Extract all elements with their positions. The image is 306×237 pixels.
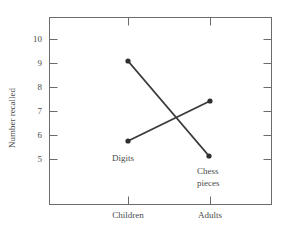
x-tick-label-children: Children xyxy=(112,211,144,220)
chart-plot-area xyxy=(0,0,306,237)
y-tick-label-7: 7 xyxy=(24,107,42,116)
data-point-digits-children xyxy=(125,58,130,63)
data-point-chess-children xyxy=(125,138,130,143)
x-axis-ticks-bottom xyxy=(129,197,211,205)
series-line-chess-pieces xyxy=(128,101,210,141)
x-axis-ticks-top xyxy=(129,18,211,26)
y-tick-label-8: 8 xyxy=(24,83,42,92)
y-tick-label-10: 10 xyxy=(24,35,42,44)
x-tick-label-adults: Adults xyxy=(198,211,222,220)
series-line-digits xyxy=(128,61,209,156)
y-axis-ticks xyxy=(50,40,58,160)
series-annotation-digits: Digits xyxy=(112,153,134,164)
data-point-chess-adults xyxy=(207,98,212,103)
series-annotation-chess-line2: pieces xyxy=(197,178,220,189)
y-axis-title: Number recalled xyxy=(7,88,17,148)
plot-frame xyxy=(50,18,272,205)
y-axis-ticks-right xyxy=(264,40,272,160)
y-tick-label-5: 5 xyxy=(24,155,42,164)
series-annotation-chess-line1: Chess xyxy=(197,166,219,177)
line-chart-figure: Number recalled 10 9 8 7 6 5 Children Ad… xyxy=(0,0,306,237)
y-tick-label-6: 6 xyxy=(24,131,42,140)
data-point-digits-adults xyxy=(206,153,211,158)
y-tick-label-9: 9 xyxy=(24,59,42,68)
